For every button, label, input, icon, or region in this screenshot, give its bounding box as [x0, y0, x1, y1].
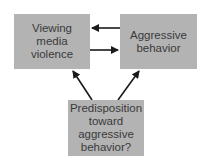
node-predisposition: Predisposition toward aggressive behavio… [68, 100, 144, 156]
node-label-line: Aggressive [130, 29, 187, 42]
node-label-line: media [31, 35, 73, 48]
node-aggressive-behavior: Aggressive behavior [120, 14, 197, 69]
node-label-line: behavior [130, 42, 187, 55]
node-label-line: violence [31, 48, 73, 61]
node-label-line: aggressive [70, 128, 142, 141]
node-label-line: Predisposition [70, 102, 142, 115]
node-label-line: Viewing [31, 22, 73, 35]
node-label-line: behavior? [70, 141, 142, 154]
arrow-predisposition-to-aggressive [118, 71, 139, 100]
node-label-line: toward [70, 115, 142, 128]
node-viewing-media-violence: Viewing media violence [14, 14, 90, 69]
arrow-predisposition-to-viewing [73, 71, 92, 100]
